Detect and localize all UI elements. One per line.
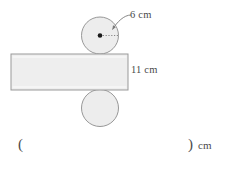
height-label: 11 cm xyxy=(131,64,158,75)
answer-unit-label: cm xyxy=(198,139,211,151)
bottom-circle xyxy=(82,90,119,127)
radius-label: 6 cm xyxy=(130,9,152,20)
answer-close-paren: ) xyxy=(188,136,193,153)
answer-blank-field[interactable] xyxy=(28,138,186,158)
middle-rectangle xyxy=(11,54,128,90)
answer-row: ( ) cm xyxy=(0,136,239,164)
answer-open-paren: ( xyxy=(18,136,23,153)
circle-center-dot xyxy=(98,33,103,38)
